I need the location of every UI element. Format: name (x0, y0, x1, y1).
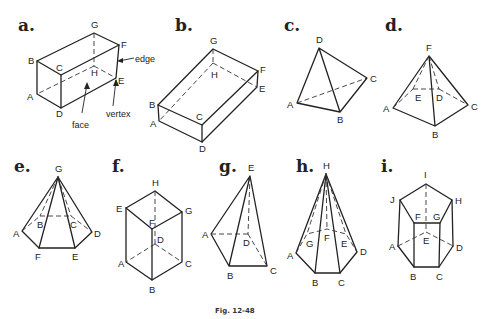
vertex-label-H: H (323, 160, 330, 171)
vertex-label-A: A (287, 250, 294, 261)
figure-i-letter: i. (381, 156, 393, 176)
vertex-label-C: C (185, 258, 192, 269)
vertex-label-D: D (243, 237, 250, 248)
vertex-label-G: G (55, 163, 62, 174)
vertex-label-D: D (94, 228, 101, 239)
vertex-label-F: F (149, 217, 155, 228)
figure-b-letter: b. (175, 15, 193, 35)
vertex-label-E: E (341, 238, 347, 249)
figure-a-letter: a. (18, 15, 35, 35)
vertex-label-F: F (260, 64, 266, 75)
figure-d-letter: d. (385, 15, 403, 35)
figure-h: h. H F G E A D B C (287, 156, 367, 288)
vertex-label-C: C (56, 62, 63, 73)
vertex-label-E: E (118, 75, 124, 86)
vertex-label-B: B (410, 271, 416, 282)
vertex-label-D: D (436, 92, 443, 103)
vertex-label-D: D (316, 34, 323, 45)
figure-h-letter: h. (296, 156, 314, 176)
vertex-label-C: C (70, 219, 77, 230)
vertex-label-D: D (360, 246, 367, 257)
vertex-label-C: C (338, 277, 345, 288)
vertex-label-G: G (210, 35, 217, 46)
figure-e-letter: e. (14, 156, 31, 176)
vertex-label-E: E (248, 162, 254, 173)
vertex-label-E: E (72, 251, 78, 262)
figure-i: i. I J H F G E A D B C (381, 156, 463, 282)
figure-g: g. E A D B C (202, 156, 277, 281)
vertex-label-H: H (91, 67, 98, 78)
vertex-label-I: I (424, 169, 427, 180)
vertex-label-F: F (426, 42, 432, 53)
vertex-label-B: B (37, 219, 43, 230)
vertex-label-D: D (157, 234, 164, 245)
vertex-label-C: C (436, 271, 443, 282)
vertex-label-C: C (370, 73, 377, 84)
vertex-label-B: B (149, 99, 155, 110)
vertex-label-F: F (35, 251, 41, 262)
vertex-label-C: C (471, 101, 478, 112)
vertex-label-J: J (390, 194, 395, 205)
vertex-label-D: D (456, 242, 463, 253)
vertex-label-E: E (423, 235, 429, 246)
vertex-label-B: B (312, 277, 318, 288)
figure-b: b. G F H E B C A D (149, 15, 266, 154)
figure-e: e. G B C A D F E (13, 156, 101, 262)
face-annotation: face (72, 120, 89, 130)
vertex-label-A: A (287, 99, 294, 110)
vertex-label-F: F (415, 211, 421, 222)
vertex-label-A: A (118, 258, 125, 269)
vertex-label-H: H (152, 177, 159, 188)
vertex-label-A: A (27, 91, 34, 102)
figure-caption: Fig. 12-48 (215, 307, 255, 315)
figure-a: a. G F B C H E A D edge face vertex (18, 15, 155, 130)
vertex-label-E: E (415, 92, 421, 103)
figure-f: f. H E G F D A C B (112, 156, 192, 295)
figure-d: d. F E D A C B (383, 15, 478, 140)
vertex-label-D: D (199, 143, 206, 154)
vertex-label-F: F (324, 232, 330, 243)
vertex-label-C: C (196, 111, 203, 122)
vertex-label-E: E (259, 83, 265, 94)
vertex-label-H: H (455, 195, 462, 206)
vertex-label-B: B (28, 55, 34, 66)
figure-c: c. D C A B (284, 15, 377, 125)
vertex-label-F: F (121, 39, 127, 50)
vertex-label-G: G (306, 238, 313, 249)
figure-c-letter: c. (284, 15, 300, 35)
vertex-label-B: B (337, 114, 343, 125)
vertex-label-A: A (150, 118, 157, 129)
vertex-label-A: A (13, 228, 20, 239)
vertex-label-B: B (149, 284, 155, 295)
figure-g-letter: g. (219, 156, 237, 176)
vertex-label-A: A (202, 229, 209, 240)
vertex-label-G: G (185, 205, 192, 216)
vertex-label-D: D (56, 108, 63, 119)
vertex-label-G: G (91, 19, 98, 30)
vertex-label-B: B (227, 270, 233, 281)
vertex-annotation: vertex (106, 109, 131, 119)
vertex-label-A: A (383, 103, 390, 114)
edge-annotation: edge (135, 54, 155, 64)
vertex-label-B: B (432, 129, 438, 140)
polyhedra-figure: a. G F B C H E A D edge face vertex b. (0, 0, 485, 319)
vertex-label-E: E (116, 203, 122, 214)
vertex-label-A: A (389, 241, 396, 252)
face-arrow-icon (84, 82, 90, 89)
figure-f-letter: f. (112, 156, 125, 176)
vertex-label-H: H (211, 69, 218, 80)
vertex-label-C: C (270, 265, 277, 276)
vertex-label-G: G (433, 211, 440, 222)
